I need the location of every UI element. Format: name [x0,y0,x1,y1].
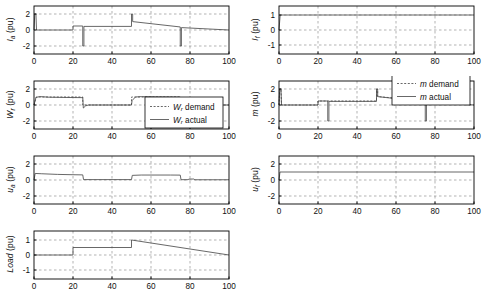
y-tick-label: 1 [270,11,275,20]
x-tick-label: 60 [391,207,401,216]
x-tick-label: 100 [222,282,236,291]
y-tick-label: 2 [25,160,30,169]
subplot-ia: 020406080100-202 [4,1,241,70]
x-tick-label: 40 [107,282,117,291]
x-tick-label: 0 [32,57,37,66]
x-tick-label: 100 [222,57,236,66]
x-tick-label: 60 [391,132,401,141]
x-tick-label: 0 [277,57,282,66]
x-tick-label: 40 [107,207,117,216]
y-tick-label: 0 [270,26,275,35]
y-tick-label: 2 [270,85,275,94]
y-tick-label: 0 [270,101,275,110]
subplot-m: 020406080100-202m demandm actual [249,76,486,145]
x-tick-label: 80 [430,132,440,141]
legend-label: m actual [420,93,451,102]
x-tick-label: 20 [313,207,323,216]
x-tick-label: 40 [352,207,362,216]
subplot-uf: 020406080100-202 [249,151,486,220]
x-tick-label: 100 [467,132,481,141]
x-tick-label: 40 [352,57,362,66]
subplot-ua: 020406080100-202 [4,151,241,220]
y-axis-label-ua: ua (pu) [5,150,16,210]
legend-label: Wr actual [173,116,207,126]
y-tick-label: -2 [268,192,276,201]
legend-label: Wr demand [173,103,215,113]
y-tick-label: 2 [270,160,275,169]
y-tick-label: -2 [23,192,31,201]
y-tick-label: 2 [25,85,30,94]
y-tick-label: -1 [23,266,31,275]
y-tick-label: 0 [25,101,30,110]
legend-label: m demand [420,80,459,89]
y-tick-label: -1 [268,41,276,50]
x-tick-label: 40 [107,57,117,66]
x-tick-label: 80 [185,132,195,141]
legend: m demandm actual [392,76,470,105]
x-tick-label: 80 [185,282,195,291]
subplot-load: 020406080100-101 [4,226,241,295]
x-tick-label: 60 [146,132,156,141]
x-tick-label: 20 [313,132,323,141]
y-axis-label-ia: Ia (pu) [5,0,16,60]
y-tick-label: 0 [25,176,30,185]
x-tick-label: 0 [277,132,282,141]
y-tick-label: -2 [23,117,31,126]
x-tick-label: 20 [68,57,78,66]
y-tick-label: -2 [268,117,276,126]
x-tick-label: 40 [352,132,362,141]
y-tick-label: 0 [25,26,30,35]
legend: Wr demandWr actual [145,97,223,128]
subplot-wr: 020406080100-202Wr demandWr actual [4,76,241,145]
x-tick-label: 0 [32,207,37,216]
x-tick-label: 60 [146,282,156,291]
y-axis-label-load: Load (pu) [5,224,15,284]
x-tick-label: 60 [146,207,156,216]
x-tick-label: 100 [467,207,481,216]
figure-canvas: 020406080100-202Ia (pu)020406080100-101I… [0,0,489,304]
x-tick-label: 60 [146,57,156,66]
y-axis-label-wr: Wr (pu) [5,75,16,135]
x-tick-label: 20 [313,57,323,66]
y-tick-label: 0 [270,176,275,185]
x-tick-label: 0 [277,207,282,216]
x-tick-label: 40 [107,132,117,141]
x-tick-label: 80 [430,57,440,66]
y-tick-label: 1 [25,236,30,245]
y-axis-label-if: If (pu) [250,0,261,60]
y-tick-label: -2 [23,42,31,51]
x-tick-label: 100 [222,207,236,216]
y-tick-label: 0 [25,251,30,260]
x-tick-label: 20 [68,207,78,216]
x-tick-label: 0 [32,282,37,291]
x-tick-label: 100 [222,132,236,141]
subplot-if: 020406080100-101 [249,1,486,70]
x-tick-label: 80 [185,57,195,66]
x-tick-label: 0 [32,132,37,141]
x-tick-label: 20 [68,132,78,141]
x-tick-label: 80 [185,207,195,216]
x-tick-label: 80 [430,207,440,216]
y-axis-label-m: m (pu) [250,74,260,134]
y-tick-label: 2 [25,10,30,19]
y-axis-label-uf: uf (pu) [250,150,261,210]
x-tick-label: 60 [391,57,401,66]
x-tick-label: 20 [68,282,78,291]
x-tick-label: 100 [467,57,481,66]
